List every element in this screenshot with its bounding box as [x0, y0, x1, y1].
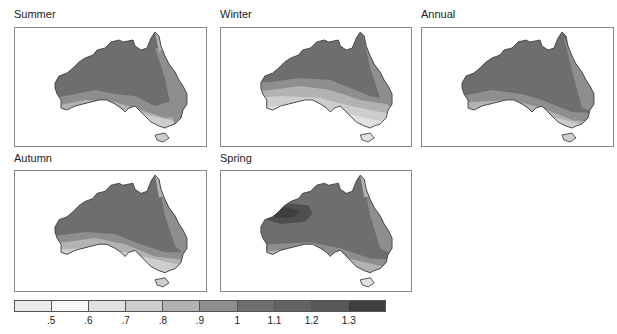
panel-title: Autumn	[14, 152, 52, 164]
map-winter	[220, 27, 412, 147]
colorbar-tick-label: .7	[121, 315, 129, 326]
colorbar-bin	[52, 301, 89, 311]
map-autumn	[14, 170, 207, 292]
map-annual	[421, 27, 614, 147]
colorbar-labels: .5 .6 .7 .8 .9 1 1.1 1.2 1.3	[14, 315, 386, 329]
panel-title: Spring	[220, 152, 252, 164]
colorbar-bin	[349, 301, 385, 311]
colorbar-bin	[163, 301, 200, 311]
colorbar-bin	[89, 301, 126, 311]
colorbar	[14, 300, 386, 312]
colorbar-tick-label: .8	[159, 315, 167, 326]
colorbar-tick-label: .9	[196, 315, 204, 326]
colorbar-bin	[200, 301, 237, 311]
panel-title: Winter	[220, 8, 252, 20]
panel-title: Summer	[14, 8, 56, 20]
panel-title: Annual	[421, 8, 455, 20]
colorbar-bin	[312, 301, 349, 311]
colorbar-bin	[15, 301, 52, 311]
colorbar-bin	[126, 301, 163, 311]
colorbar-tick-label: 1	[234, 315, 240, 326]
colorbar-tick-label: .6	[84, 315, 92, 326]
map-summer	[14, 27, 207, 147]
colorbar-bin	[238, 301, 275, 311]
colorbar-tick-label: .5	[47, 315, 55, 326]
colorbar-tick-label: 1.1	[267, 315, 281, 326]
map-spring	[220, 170, 412, 292]
colorbar-tick-label: 1.2	[305, 315, 319, 326]
colorbar-bin	[275, 301, 312, 311]
colorbar-tick-label: 1.3	[342, 315, 356, 326]
